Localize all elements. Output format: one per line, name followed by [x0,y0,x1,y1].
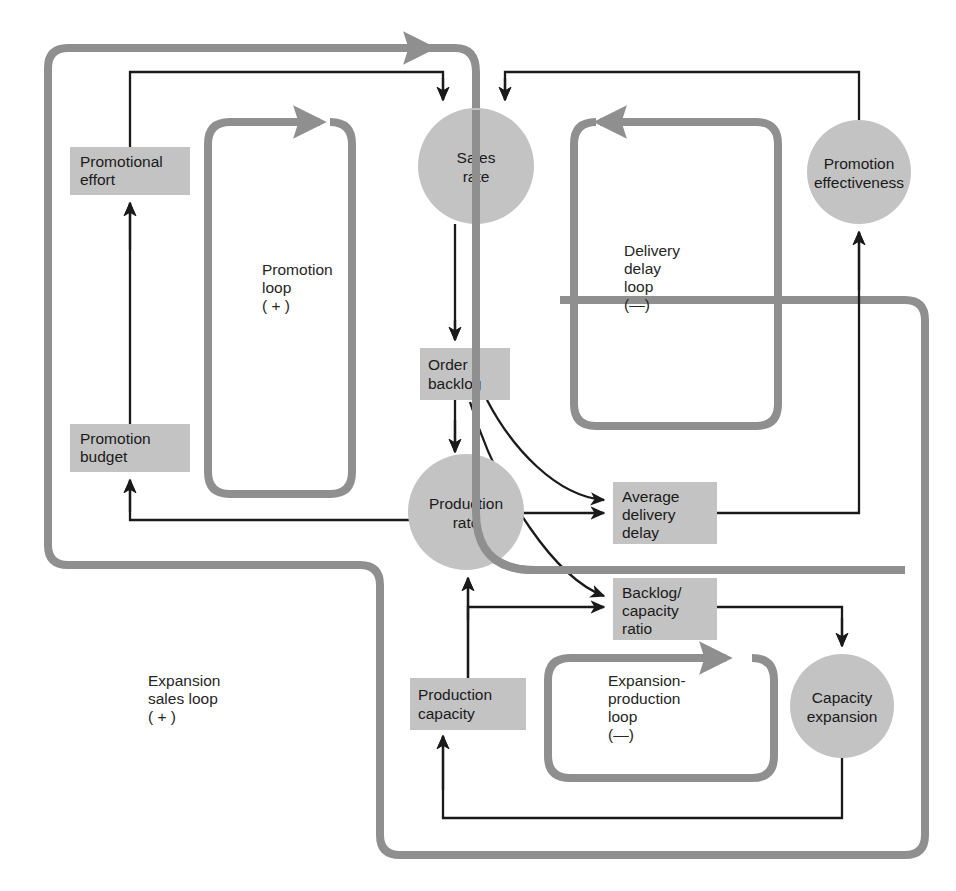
circle-production-rate-label-line1: Production [429,495,503,512]
box-average-delivery-delay-label-line3: delay [622,524,659,541]
promotion-loop-label-sign: ( + ) [262,297,290,314]
box-backlog-capacity-ratio-label-line1: Backlog/ [622,584,682,601]
box-average-delivery-delay-label-line1: Average [622,488,679,505]
expansion-sales-loop-label-line1: Expansion [148,672,220,689]
expansion-sales-loop-label-line2: sales loop [148,690,218,707]
promotion-loop-label-line2: loop [262,279,291,296]
expansion-production-loop-label-sign: (—) [608,726,634,743]
box-promotion-budget[interactable]: Promotion budget [70,424,190,472]
circle-promotion-effectiveness[interactable]: Promotion effectiveness [807,120,911,224]
box-order-backlog-label-line1: Order [428,356,468,373]
box-average-delivery-delay-label-line2: delivery [622,506,676,523]
circle-promotion-effectiveness-shape[interactable] [807,120,911,224]
delivery-delay-loop-label-line2: delay [624,260,661,277]
delivery-delay-loop-label-sign: (—) [624,296,650,313]
causal-loop-diagram: Promotional effort Promotion budget Orde… [0,0,956,891]
box-backlog-capacity-ratio-label-line3: ratio [622,620,652,637]
delivery-delay-loop-label-line1: Delivery [624,242,680,259]
box-promotional-effort[interactable]: Promotional effort [70,147,190,195]
box-promotion-budget-label-line1: Promotion [80,430,151,447]
box-promotional-effort-label-line2: effort [80,171,116,188]
box-production-capacity-label-line2: capacity [418,705,475,722]
box-production-capacity[interactable]: Production capacity [410,678,526,730]
circle-capacity-expansion[interactable]: Capacity expansion [790,654,894,758]
box-production-capacity-label-line1: Production [418,686,492,703]
circle-production-rate[interactable]: Production rate [408,454,524,570]
expansion-production-loop-label-line1: Expansion- [608,672,686,689]
circle-capacity-expansion-shape[interactable] [790,654,894,758]
delivery-delay-loop-label-line3: loop [624,278,653,295]
circle-capacity-expansion-label-line2: expansion [807,708,878,725]
circle-promotion-effectiveness-label-line1: Promotion [824,155,895,172]
circle-production-rate-shape[interactable] [408,454,524,570]
box-promotion-budget-label-line2: budget [80,448,128,465]
box-average-delivery-delay[interactable]: Average delivery delay [613,482,717,544]
box-promotional-effort-label-line1: Promotional [80,153,163,170]
box-backlog-capacity-ratio[interactable]: Backlog/ capacity ratio [613,578,717,640]
circle-promotion-effectiveness-label-line2: effectiveness [814,174,904,191]
circle-capacity-expansion-label-line1: Capacity [812,689,873,706]
expansion-production-loop-label-line2: production [608,690,680,707]
box-backlog-capacity-ratio-label-line2: capacity [622,602,679,619]
expansion-production-loop-label-line3: loop [608,708,637,725]
promotion-loop-label-line1: Promotion [262,261,333,278]
box-order-backlog[interactable]: Order backlog [420,348,510,400]
expansion-sales-loop-label-sign: ( + ) [148,708,176,725]
